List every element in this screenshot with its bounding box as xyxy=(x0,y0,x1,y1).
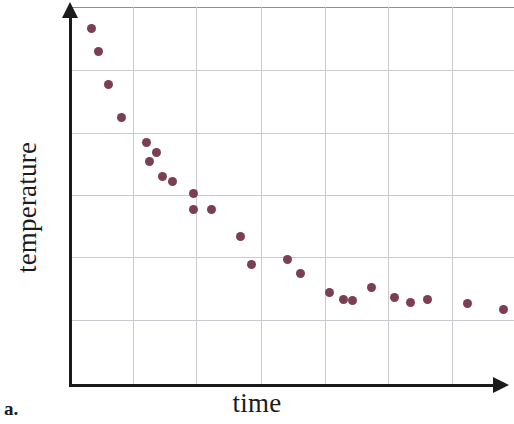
gridline-vertical xyxy=(388,7,389,385)
gridline-vertical xyxy=(325,7,326,385)
data-point xyxy=(325,288,334,297)
scatter-plot-figure: temperature time a. xyxy=(0,0,514,424)
data-point xyxy=(367,283,376,292)
gridline-horizontal xyxy=(70,70,514,71)
figure-caption: a. xyxy=(4,398,18,420)
gridline-horizontal xyxy=(70,7,514,8)
data-point xyxy=(207,205,216,214)
data-point xyxy=(104,80,113,89)
data-point xyxy=(152,148,161,157)
gridline-vertical xyxy=(133,7,134,385)
y-axis-arrow-icon xyxy=(62,2,78,18)
x-axis-label: time xyxy=(0,388,514,419)
data-point xyxy=(117,113,126,122)
data-point xyxy=(145,157,154,166)
data-point xyxy=(499,305,508,314)
data-point xyxy=(463,299,472,308)
gridline-vertical xyxy=(452,7,453,385)
data-point xyxy=(158,172,167,181)
gridline-horizontal xyxy=(70,320,514,321)
data-point xyxy=(339,295,348,304)
y-axis-label: temperature xyxy=(12,118,43,298)
gridline-vertical xyxy=(261,7,262,385)
data-point xyxy=(142,138,151,147)
data-point xyxy=(189,205,198,214)
data-point xyxy=(87,24,96,33)
data-point xyxy=(94,47,103,56)
data-point xyxy=(296,269,305,278)
gridline-horizontal xyxy=(70,195,514,196)
data-point xyxy=(348,296,357,305)
data-point xyxy=(423,295,432,304)
x-axis-line xyxy=(69,384,495,387)
plot-area xyxy=(70,7,514,385)
y-axis-line xyxy=(69,14,72,386)
gridline-horizontal xyxy=(70,257,514,258)
data-point xyxy=(283,255,292,264)
gridline-horizontal xyxy=(70,133,514,134)
data-point xyxy=(168,177,177,186)
data-point xyxy=(247,260,256,269)
data-point xyxy=(236,232,245,241)
data-point xyxy=(390,293,399,302)
data-point xyxy=(189,189,198,198)
data-point xyxy=(406,298,415,307)
